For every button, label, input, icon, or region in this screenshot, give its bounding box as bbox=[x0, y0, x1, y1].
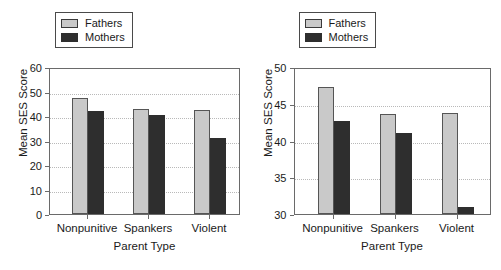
y-tick-label-45: 45 bbox=[267, 99, 287, 110]
legend-entry-mothers: Mothers bbox=[61, 30, 125, 44]
legend-left: Fathers Mothers bbox=[55, 12, 133, 48]
bar-spankers-mothers bbox=[396, 133, 412, 214]
x-tick-mark-spankers bbox=[148, 215, 149, 219]
bar-violent-mothers bbox=[210, 138, 226, 214]
y-tick-label-60: 60 bbox=[22, 63, 42, 74]
bar-group-violent bbox=[183, 110, 237, 214]
legend-swatch-fathers-icon bbox=[305, 19, 322, 28]
y-tick-label-50: 50 bbox=[22, 87, 42, 98]
legend-swatch-mothers-icon bbox=[305, 33, 322, 42]
bar-nonpunitive-mothers bbox=[88, 111, 104, 214]
figure-two-panel-bar-charts: Fathers Mothers Mean SES Score 60 50 40 … bbox=[0, 0, 501, 270]
bar-series-container-right bbox=[295, 69, 490, 214]
plot-area-right bbox=[294, 68, 491, 215]
x-tick-mark-nonpunitive bbox=[87, 215, 88, 219]
y-tick-label-35: 35 bbox=[267, 173, 287, 184]
bar-violent-mothers bbox=[458, 207, 474, 214]
x-tick-label-spankers: Spankers bbox=[360, 222, 430, 234]
bar-group-nonpunitive bbox=[307, 87, 361, 214]
plot-area-left bbox=[49, 68, 240, 215]
legend-label-mothers: Mothers bbox=[329, 32, 369, 43]
legend-entry-fathers: Fathers bbox=[61, 16, 125, 30]
legend-swatch-mothers-icon bbox=[61, 33, 78, 42]
bar-spankers-mothers bbox=[149, 115, 165, 214]
chart-panel-right: Fathers Mothers Mean SES Score 50 45 40 … bbox=[251, 0, 501, 270]
bar-series-container-left bbox=[50, 69, 239, 214]
y-tick-label-30: 30 bbox=[267, 210, 287, 221]
y-tick-mark-30 bbox=[290, 215, 294, 216]
legend-label-fathers: Fathers bbox=[329, 18, 366, 29]
x-tick-mark-violent bbox=[209, 215, 210, 219]
x-axis-label-left: Parent Type bbox=[49, 240, 240, 252]
legend-entry-mothers: Mothers bbox=[305, 30, 369, 44]
y-tick-label-30: 30 bbox=[22, 136, 42, 147]
legend-entry-fathers: Fathers bbox=[305, 16, 369, 30]
bar-group-spankers bbox=[122, 109, 176, 214]
y-tick-label-20: 20 bbox=[22, 161, 42, 172]
legend-label-fathers: Fathers bbox=[85, 18, 122, 29]
y-tick-label-50: 50 bbox=[267, 63, 287, 74]
chart-panel-left: Fathers Mothers Mean SES Score 60 50 40 … bbox=[0, 0, 251, 270]
y-tick-label-10: 10 bbox=[22, 185, 42, 196]
y-tick-label-40: 40 bbox=[22, 112, 42, 123]
legend-label-mothers: Mothers bbox=[85, 32, 125, 43]
bar-group-spankers bbox=[369, 114, 423, 214]
bar-group-nonpunitive bbox=[61, 98, 115, 214]
bar-spankers-fathers bbox=[133, 109, 149, 214]
y-tick-mark-0 bbox=[45, 215, 49, 216]
y-tick-label-0: 0 bbox=[22, 210, 42, 221]
y-tick-label-40: 40 bbox=[267, 136, 287, 147]
x-tick-label-violent: Violent bbox=[179, 222, 239, 234]
x-tick-mark-nonpunitive bbox=[333, 215, 334, 219]
x-tick-mark-spankers bbox=[395, 215, 396, 219]
x-axis-label-right: Parent Type bbox=[294, 240, 491, 252]
legend-swatch-fathers-icon bbox=[61, 19, 78, 28]
x-tick-mark-violent bbox=[457, 215, 458, 219]
bar-group-violent bbox=[431, 113, 485, 214]
bar-nonpunitive-mothers bbox=[334, 121, 350, 214]
x-tick-label-violent: Violent bbox=[427, 222, 487, 234]
bar-violent-fathers bbox=[442, 113, 458, 214]
bar-nonpunitive-fathers bbox=[72, 98, 88, 214]
bar-nonpunitive-fathers bbox=[318, 87, 334, 214]
bar-spankers-fathers bbox=[380, 114, 396, 214]
x-tick-label-spankers: Spankers bbox=[113, 222, 183, 234]
bar-violent-fathers bbox=[194, 110, 210, 214]
legend-right: Fathers Mothers bbox=[299, 12, 377, 48]
